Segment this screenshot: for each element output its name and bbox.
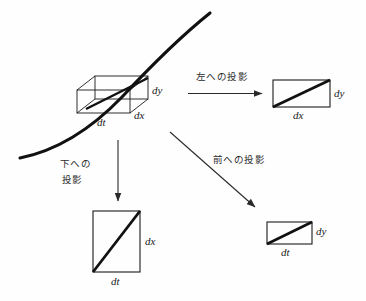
arrow-front-caption: 前への投影	[213, 153, 265, 167]
arrow-left-caption: 左への投影	[196, 70, 248, 84]
world-line-curve	[20, 13, 210, 158]
arrow-down-caption-line2: 投影	[62, 173, 83, 187]
projection-front-panel	[267, 222, 312, 244]
projection-left-bottom-label: dx	[293, 110, 303, 121]
arrow-front-projection	[170, 132, 255, 207]
projection-down-bottom-label: dt	[111, 276, 120, 287]
box-label-dx: dx	[134, 110, 144, 121]
projection-front-side-label: dy	[316, 226, 326, 237]
box-label-dy: dy	[152, 85, 162, 96]
projection-left-side-label: dy	[334, 88, 344, 99]
box-label-dt: dt	[97, 117, 106, 128]
projection-front-bottom-label: dt	[281, 247, 290, 258]
projection-down-side-label: dx	[145, 236, 155, 247]
diagram-svg	[0, 0, 366, 301]
projection-left-panel	[273, 80, 330, 107]
projection-down-panel	[93, 211, 140, 272]
arrow-down-caption-line1: 下への	[60, 157, 91, 171]
figure-canvas: dy dx dt 左への投影 下への 投影 前への投影 dy dx dx dt …	[0, 0, 366, 301]
